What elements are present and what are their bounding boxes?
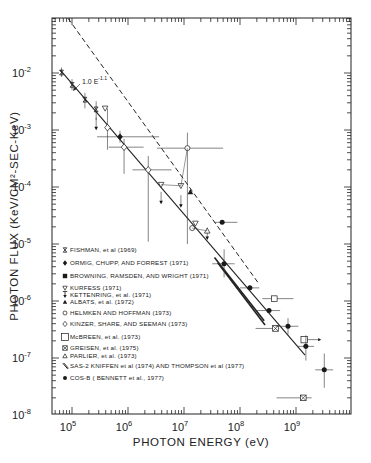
legend-marker-filled-circle [63,376,67,380]
legend-item: KINZER, SHARE, AND SEEMAN (1973) [63,320,188,327]
legend-label: COS-B ( BENNETT et al., 1977) [70,374,164,381]
legend-item: KURFESS (1971) [63,284,122,291]
legend-label: FISHMAN, et al (1969) [70,246,137,253]
legend-marker-filled-triangle [63,300,67,304]
legend-marker-open-triangle-down [63,286,67,290]
legend-label: KURFESS (1971) [70,284,122,291]
legend-item: SAS-2 KNIFFEN et al (1974) AND THOMPSON … [63,362,245,369]
sas2-band-line [218,263,265,325]
legend-label: GREISEN, et al. (1975) [70,344,139,351]
legend-marker-crossed-square [63,346,67,350]
series-arrow-down-upper-limit [94,118,209,240]
legend-label: KINZER, SHARE, AND SEEMAN (1973) [70,320,187,327]
legend-label: ALBATS, et al. (1972) [70,298,134,305]
legend-marker-open-diamond [63,321,67,326]
legend-marker-filled-square [63,274,67,278]
legend-label: BROWNING, RAMSDEN, AND WRIGHT (1971) [70,272,209,279]
y-tick-label: 10-8 [12,407,31,421]
x-tick-label: 105 [60,419,76,433]
dashed-envelope-line [68,18,258,282]
annotation-base: 1.0 E [82,78,99,85]
legend-label: ORMIG, CHUPP, AND FORREST (1971) [70,259,189,266]
annotation-exponent: -1.1 [98,75,107,81]
legend-marker-arrow-down-upper-limit [63,291,67,298]
y-tick-label: 10-7 [12,350,31,364]
legend-item: McBREEN, et al. (1973) [62,333,141,340]
legend-item: ALBATS, et al. (1972) [63,298,134,305]
slope-annotation: 1.0 E-1.1 [73,75,107,91]
series-open-square [262,296,321,343]
y-tick-label: 10-2 [12,65,31,79]
legend-label: PARLIER, et al. (1973) [70,352,137,359]
legend-marker-open-circle [63,311,67,315]
legend-item: GREISEN, et al. (1975) [63,344,139,351]
legend-marker-line-band [63,363,69,369]
svg-text:1.0 E-1.1: 1.0 E-1.1 [82,75,107,85]
series-filled-triangle [188,189,194,194]
legend-item: FISHMAN, et al (1969) [63,246,137,253]
legend-item: BROWNING, RAMSDEN, AND WRIGHT (1971) [63,272,209,279]
x-tick-label: 109 [284,419,300,433]
x-axis-tick-labels: 105106107108109 [60,419,300,433]
legend-label: SAS-2 KNIFFEN et al (1974) AND THOMPSON … [70,362,244,369]
legend-marker-hourglass [63,248,67,252]
x-tick-label: 106 [116,419,132,433]
x-tick-label: 108 [228,419,244,433]
legend-marker-open-triangle [63,354,67,358]
legend-marker-filled-diamond [63,260,67,265]
y-axis-title: PHOTON FLUX (KeV/CM²-SEC-KeV) [8,111,20,321]
legend: FISHMAN, et al (1969)ORMIG, CHUPP, AND F… [62,246,245,381]
series-open-diamond [105,108,172,241]
x-axis-title: PHOTON ENERGY (eV) [133,436,269,448]
legend-marker-open-square [62,334,69,341]
legend-item: PARLIER, et al. (1973) [63,352,137,359]
series-open-triangle-down [102,106,198,226]
photon-flux-chart: 105106107108109 10-210-310-410-510-610-7… [0,0,371,463]
legend-label: McBREEN, et al. (1973) [70,333,140,340]
legend-item: HELMKEN AND HOFFMAN (1973) [63,309,171,316]
x-tick-label: 107 [172,419,188,433]
legend-item: ORMIG, CHUPP, AND FORREST (1971) [63,259,189,266]
legend-label: HELMKEN AND HOFFMAN (1973) [70,309,171,316]
legend-item: COS-B ( BENNETT et al., 1977) [63,374,164,381]
legend-label: KETTENRING, et al. (1971) [70,291,151,298]
